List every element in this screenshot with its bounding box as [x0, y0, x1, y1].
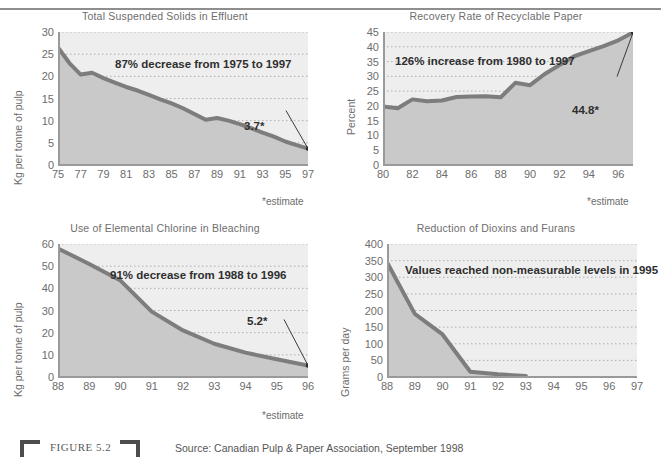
- x-axis-tick: 91: [464, 380, 476, 392]
- x-axis-tick: 97: [631, 380, 643, 392]
- chart-title: Use of Elemental Chlorine in Bleaching: [0, 222, 330, 234]
- y-axis-tick: 25: [367, 85, 379, 97]
- x-axis-tick: 80: [377, 168, 389, 180]
- y-axis-tick: 20: [42, 327, 54, 339]
- chart-annotation: 87% decrease from 1975 to 1997: [115, 58, 291, 70]
- x-axis-tick: 88: [381, 380, 393, 392]
- chart-panel-total-suspended-solids: Total Suspended Solids in Effluent Kg pe…: [0, 10, 330, 220]
- x-axis-tick: 95: [279, 168, 291, 180]
- chart-panel-dioxins-furans: Reduction of Dioxins and Furans Grams pe…: [331, 222, 661, 434]
- x-axis-tick: 92: [553, 168, 565, 180]
- x-axis-tick: 88: [495, 168, 507, 180]
- chart-annotation: 126% increase from 1980 to 1997: [395, 55, 575, 67]
- chart-y-axis-label: Kg per tonne of pulp: [12, 302, 24, 397]
- y-axis-tick: 300: [365, 271, 383, 283]
- chart-y-axis-label: Kg per tonne of pulp: [12, 90, 24, 185]
- x-axis-tick: 94: [239, 380, 251, 392]
- x-axis-line: [387, 376, 637, 378]
- x-axis-tick: 86: [465, 168, 477, 180]
- x-axis-tick: 96: [612, 168, 624, 180]
- chart-annotation: Values reached non-measurable levels in …: [405, 264, 658, 276]
- chart-panel-recovery-rate: Recovery Rate of Recyclable Paper Percen…: [331, 10, 661, 220]
- bracket-right-icon: [120, 440, 140, 457]
- chart-callout-value: 5.2*: [247, 315, 267, 327]
- y-axis-tick: 10: [42, 349, 54, 361]
- chart-plot-area: 0102030405060888990919293949596: [58, 244, 308, 377]
- chart-callout-value: 3.7*: [244, 120, 264, 132]
- x-axis-tick: 82: [406, 168, 418, 180]
- y-axis-tick: 5: [48, 137, 54, 149]
- y-axis-line: [383, 32, 385, 165]
- x-axis-tick: 89: [409, 380, 421, 392]
- x-axis-line: [383, 164, 633, 166]
- chart-title: Recovery Rate of Recyclable Paper: [331, 10, 661, 22]
- x-axis-tick: 92: [492, 380, 504, 392]
- x-axis-tick: 95: [271, 380, 283, 392]
- chart-title: Total Suspended Solids in Effluent: [0, 10, 330, 22]
- y-axis-tick: 150: [365, 321, 383, 333]
- bracket-left-icon: [20, 440, 40, 457]
- chart-annotation: 91% decrease from 1988 to 1996: [110, 269, 286, 281]
- x-axis-tick: 88: [52, 380, 64, 392]
- y-axis-tick: 15: [42, 93, 54, 105]
- x-axis-tick: 87: [188, 168, 200, 180]
- y-axis-tick: 30: [42, 305, 54, 317]
- y-axis-tick: 40: [367, 41, 379, 53]
- x-axis-tick: 90: [436, 380, 448, 392]
- x-axis-line: [58, 164, 308, 166]
- figure-footer: FIGURE 5.2 Source: Canadian Pulp & Paper…: [0, 437, 661, 464]
- x-axis-tick: 75: [52, 168, 64, 180]
- y-axis-line: [387, 244, 389, 377]
- chart-plot-area: 051015202530757779818385878991939597: [58, 32, 308, 165]
- y-axis-tick: 10: [367, 129, 379, 141]
- chart-panel-elemental-chlorine: Use of Elemental Chlorine in Bleaching K…: [0, 222, 330, 434]
- figure-label: FIGURE 5.2: [50, 441, 111, 453]
- y-axis-tick: 400: [365, 238, 383, 250]
- y-axis-tick: 15: [367, 115, 379, 127]
- chart-title: Reduction of Dioxins and Furans: [331, 222, 661, 234]
- x-axis-tick: 96: [603, 380, 615, 392]
- chart-series-svg: [58, 244, 308, 377]
- y-axis-tick: 30: [42, 26, 54, 38]
- x-axis-tick: 89: [83, 380, 95, 392]
- x-axis-line: [58, 376, 308, 378]
- x-axis-tick: 94: [583, 168, 595, 180]
- y-axis-tick: 20: [367, 100, 379, 112]
- chart-series-svg: [58, 32, 308, 165]
- estimate-note: *estimate: [587, 196, 629, 207]
- x-axis-tick: 81: [120, 168, 132, 180]
- x-axis-tick: 91: [234, 168, 246, 180]
- x-axis-tick: 95: [575, 380, 587, 392]
- y-axis-tick: 10: [42, 115, 54, 127]
- x-axis-tick: 97: [302, 168, 314, 180]
- y-axis-tick: 20: [42, 70, 54, 82]
- y-axis-tick: 45: [367, 26, 379, 38]
- y-axis-tick: 200: [365, 305, 383, 317]
- x-axis-tick: 93: [256, 168, 268, 180]
- chart-callout-value: 44.8*: [572, 104, 599, 116]
- x-axis-tick: 77: [75, 168, 87, 180]
- y-axis-line: [58, 244, 60, 377]
- x-axis-tick: 85: [166, 168, 178, 180]
- y-axis-tick: 25: [42, 48, 54, 60]
- x-axis-tick: 94: [548, 380, 560, 392]
- y-axis-tick: 60: [42, 238, 54, 250]
- x-axis-tick: 96: [302, 380, 314, 392]
- y-axis-line: [58, 32, 60, 165]
- x-axis-tick: 90: [114, 380, 126, 392]
- x-axis-tick: 93: [208, 380, 220, 392]
- chart-plot-area: 051015202530354045808284868890929496: [383, 32, 633, 165]
- x-axis-tick: 89: [211, 168, 223, 180]
- estimate-note: *estimate: [262, 410, 304, 421]
- x-axis-tick: 84: [436, 168, 448, 180]
- y-axis-tick: 50: [42, 260, 54, 272]
- y-axis-tick: 5: [373, 144, 379, 156]
- estimate-note: *estimate: [262, 196, 304, 207]
- chart-y-axis-label: Percent: [345, 99, 357, 135]
- figure-source: Source: Canadian Pulp & Paper Associatio…: [175, 442, 463, 454]
- x-axis-tick: 92: [177, 380, 189, 392]
- x-axis-tick: 91: [146, 380, 158, 392]
- y-axis-tick: 40: [42, 282, 54, 294]
- y-axis-tick: 35: [367, 56, 379, 68]
- x-axis-tick: 83: [143, 168, 155, 180]
